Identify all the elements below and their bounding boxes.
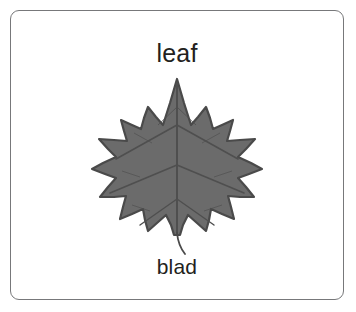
maple-leaf-icon — [88, 73, 266, 255]
page-title: leaf — [11, 39, 343, 67]
flashcard: leaf blad — [10, 10, 344, 300]
translation-label: blad — [11, 255, 343, 279]
leaf-illustration-container — [11, 73, 343, 255]
